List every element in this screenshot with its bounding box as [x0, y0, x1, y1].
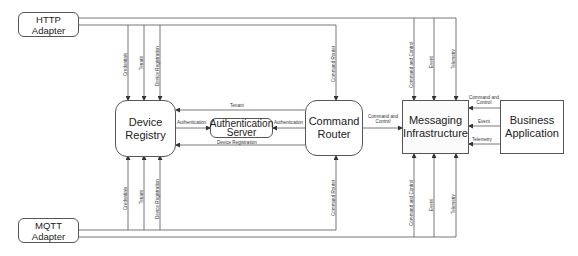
edge-label-mqtt-event: Event [429, 199, 434, 211]
edge-label-device-registration: Device Registration [217, 140, 257, 145]
http-adapter-label: HTTP Adapter [19, 14, 78, 36]
edge-label-business-command-and-control: Command and Control [466, 95, 502, 105]
http-adapter-node[interactable]: HTTP Adapter [18, 12, 79, 37]
connector-lines [0, 0, 578, 256]
messaging-infrastructure-node[interactable]: Messaging Infrastructure [402, 100, 469, 154]
command-router-label: Command Router [309, 115, 360, 141]
mqtt-adapter-label: MQTT Adapter [19, 220, 78, 242]
business-application-label: Business Application [505, 114, 559, 140]
edge-label-http-credentials: Credentials [123, 53, 128, 76]
edge-label-mqtt-telemetry: Telemetry [451, 194, 456, 214]
edge-label-http-telemetry: Telemetry [451, 49, 456, 69]
device-registry-node[interactable]: Device Registry [115, 100, 176, 157]
edge-label-router-messaging: Command and Control [366, 114, 400, 124]
command-router-node[interactable]: Command Router [305, 100, 363, 156]
edge-label-business-telemetry: Telemetry [472, 137, 492, 142]
edge-label-router-authentication: Authentication [274, 120, 303, 125]
edge-label-mqtt-credentials: Credentials [123, 187, 128, 210]
edge-label-mqtt-tenant: Tenant [139, 190, 144, 204]
edge-label-http-event: Event [429, 56, 434, 68]
device-registry-label: Device Registry [124, 116, 167, 142]
messaging-infrastructure-label: Messaging Infrastructure [403, 114, 468, 140]
edge-label-business-event: Event [478, 119, 490, 124]
edge-label-http-command-router: Command Router [331, 46, 336, 82]
edge-label-http-device-registration: Device Registration [155, 46, 160, 86]
mqtt-adapter-node[interactable]: MQTT Adapter [18, 218, 79, 243]
authentication-server-label: Authentication Server [210, 119, 273, 137]
authentication-server-node[interactable]: Authentication Server [210, 118, 273, 138]
edge-label-http-command-and-control: Command and Control [409, 42, 414, 88]
edge-label-tenant: Tenant [230, 103, 244, 108]
edge-label-mqtt-command-router: Command Router [331, 180, 336, 216]
edge-label-mqtt-device-registration: Device Registration [155, 179, 160, 219]
business-application-node[interactable]: Business Application [500, 100, 564, 154]
edge-label-mqtt-command-and-control: Command and Control [409, 180, 414, 226]
edge-label-http-tenant: Tenant [139, 56, 144, 70]
edge-label-registry-authentication: Authentication [177, 120, 206, 125]
